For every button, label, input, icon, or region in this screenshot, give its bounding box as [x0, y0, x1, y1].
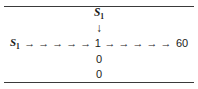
bottom-rule: [4, 82, 194, 83]
top-symbol-subscript: 1: [100, 12, 104, 21]
derivation-figure: S1 ↓ 0 0 S1 →→→→→ 1 →→→→→ 60: [0, 0, 198, 89]
down-arrow-icon: ↓: [96, 20, 102, 35]
right-arrow-icon: →: [65, 38, 79, 49]
right-arrow-icon: →: [159, 38, 173, 49]
right-arrow-icon: →: [117, 38, 131, 49]
top-rule: [4, 6, 194, 7]
right-arrow-icon: →: [51, 38, 65, 49]
right-arrow-icon: →: [79, 38, 93, 49]
right-arrow-icon: →: [131, 38, 145, 49]
right-arrow-group: →→→→→: [103, 38, 173, 49]
start-symbol-subscript: 1: [16, 42, 20, 51]
middle-value: 1: [93, 38, 103, 49]
right-arrow-icon: →: [103, 38, 117, 49]
below-value-1: 0: [96, 52, 102, 67]
end-value: 60: [173, 38, 190, 49]
right-arrow-icon: →: [37, 38, 51, 49]
top-symbol-base: S: [94, 6, 100, 18]
main-derivation-row: S1 →→→→→ 1 →→→→→ 60: [0, 35, 198, 52]
below-value-2: 0: [96, 67, 102, 82]
right-arrow-icon: →: [23, 38, 37, 49]
left-arrow-group: →→→→→: [23, 38, 93, 49]
right-arrow-icon: →: [145, 38, 159, 49]
top-symbol: S1: [94, 8, 104, 20]
start-symbol: S1: [8, 37, 22, 51]
